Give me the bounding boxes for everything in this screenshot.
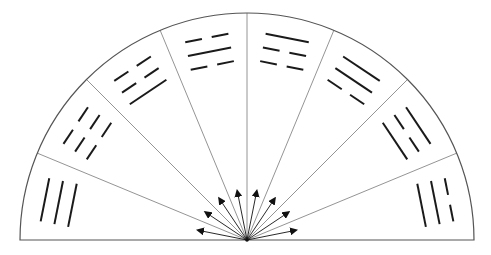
yin-line-segment	[191, 66, 208, 69]
yang-line	[266, 34, 309, 43]
yin-line-segment	[409, 137, 418, 151]
trigram-semicircle-diagram	[0, 0, 491, 255]
trigram-sector-5	[260, 34, 309, 70]
sector-divider	[86, 79, 247, 240]
yin-line-segment	[350, 95, 364, 104]
yin-line-segment	[87, 145, 96, 159]
sector-divider	[247, 79, 408, 240]
yin-line-segment	[90, 115, 99, 129]
center-point	[245, 238, 249, 242]
trigram-sector-1	[41, 178, 77, 227]
yang-line	[417, 184, 426, 227]
yin-line-segment	[114, 71, 128, 80]
yang-line	[54, 181, 63, 224]
yin-line-segment	[328, 80, 342, 89]
yin-line-segment	[78, 107, 87, 121]
trigram-sector-8	[417, 178, 453, 227]
yin-line-segment	[450, 205, 453, 222]
trigram-sector-4	[185, 34, 234, 70]
yin-line-segment	[263, 47, 280, 50]
trigram-sector-3	[114, 56, 166, 104]
yin-line-segment	[260, 61, 277, 64]
yin-line-segment	[287, 66, 304, 69]
yang-line	[41, 178, 50, 221]
yang-line	[68, 184, 77, 227]
yin-line-segment	[289, 53, 306, 56]
yin-line-segment	[144, 68, 158, 77]
yin-line-segment	[185, 39, 202, 42]
yang-line	[431, 181, 440, 224]
trigram-sector-7	[383, 107, 431, 159]
trigram-sector-2	[63, 107, 111, 159]
sector-dividers	[37, 13, 456, 240]
trigram-sector-6	[328, 56, 380, 104]
yin-line-segment	[394, 115, 403, 129]
yin-line-segment	[75, 137, 84, 151]
yang-line	[188, 47, 231, 56]
yin-line-segment	[122, 83, 136, 92]
diagram-canvas	[0, 0, 491, 255]
yin-line-segment	[137, 56, 151, 65]
yin-line-segment	[63, 130, 72, 144]
yin-line-segment	[102, 123, 111, 137]
yin-line-segment	[217, 61, 234, 64]
yin-line-segment	[212, 34, 229, 37]
yin-line-segment	[445, 178, 448, 195]
